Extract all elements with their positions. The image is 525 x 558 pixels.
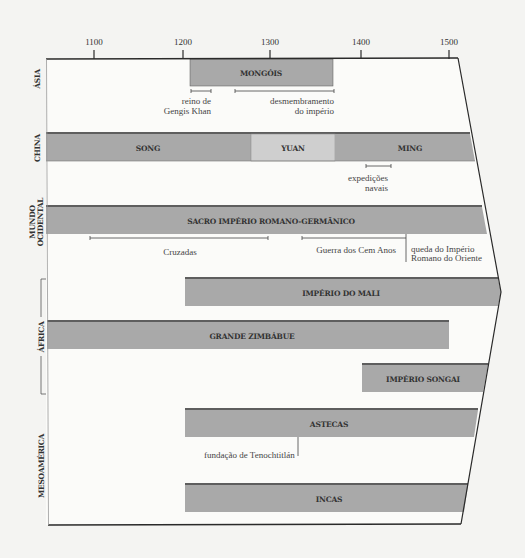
note-exped-1: expedições <box>348 173 388 183</box>
region-asia: ÁSIA <box>33 69 42 90</box>
region-china: CHINA <box>33 134 42 162</box>
bar-label-song: SONG <box>136 144 160 153</box>
bar-label-mali: IMPÉRIO DO MALI <box>302 289 380 298</box>
region-ocidental-2: OCIDENTAL <box>36 197 45 247</box>
note-gengis-2: Gengis Khan <box>164 106 212 116</box>
bar-label-mongois: MONGÓIS <box>240 69 282 78</box>
region-mesoamerica: MESOAMÉRICA <box>37 434 46 499</box>
tick-1200: 1200 <box>174 37 193 47</box>
note-desm-1: desmembramento <box>270 96 334 106</box>
note-guerra: Guerra dos Cem Anos <box>316 245 396 255</box>
note-queda-2: Romano do Oriente <box>411 253 482 263</box>
tick-1300: 1300 <box>261 37 280 47</box>
note-tenoch: fundação de Tenochtitlán <box>204 450 295 460</box>
bar-label-yuan: YUAN <box>280 144 305 153</box>
tick-1400: 1400 <box>352 37 371 47</box>
tick-1100: 1100 <box>85 37 103 47</box>
note-desm-2: do império <box>295 106 335 116</box>
bar-label-ming: MING <box>398 144 422 153</box>
bar-label-incas: INCAS <box>316 495 343 504</box>
bar-label-astecas: ASTECAS <box>309 420 348 429</box>
note-gengis-1: reino de <box>182 96 211 106</box>
bar-label-songai: IMPÉRIO SONGAI <box>386 375 460 384</box>
bar-label-sacro: SACRO IMPÉRIO ROMANO-GERMÂNICO <box>187 217 355 226</box>
timeline-diagram: 1100 1200 1300 1400 1500 MONGÓIS reino d… <box>0 0 525 558</box>
bar-label-zimbabue: GRANDE ZIMBÁBUE <box>209 332 295 341</box>
axis-ticks: 1100 1200 1300 1400 1500 <box>85 37 458 59</box>
tick-1500: 1500 <box>440 37 459 47</box>
region-africa: ÁFRICA <box>37 321 46 353</box>
note-cruzadas: Cruzadas <box>163 247 197 257</box>
note-exped-2: navais <box>365 183 388 193</box>
